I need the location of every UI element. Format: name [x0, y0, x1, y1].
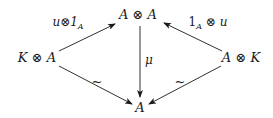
node-aa-right: A: [148, 7, 157, 22]
node-ka-right: A: [47, 50, 56, 65]
node-k-tensor-a: K ⊗ A: [18, 51, 56, 65]
tensor-symbol: ⊗: [235, 50, 246, 65]
label-1a-rest: ⊗ u: [202, 15, 227, 29]
commutative-diagram: K ⊗ A A ⊗ A A ⊗ K A u⊗1A 1A ⊗ u μ ~ ~: [0, 0, 273, 118]
label-mu: μ: [145, 53, 153, 67]
node-ka-left: K: [18, 50, 28, 65]
label-1a-tensor-u: 1A ⊗ u: [189, 15, 228, 34]
tensor-symbol: ⊗: [133, 7, 144, 22]
node-a: A: [135, 101, 144, 115]
node-ak-left: A: [222, 50, 231, 65]
node-a-tensor-k: A ⊗ K: [222, 51, 260, 65]
label-subscript: A: [78, 22, 84, 31]
node-aa-left: A: [119, 7, 128, 22]
label-u-tensor-1a: u⊗1A: [52, 15, 83, 34]
node-ak-right: K: [250, 50, 260, 65]
tensor-symbol: ⊗: [32, 50, 43, 65]
label-iso-left: ~: [92, 75, 103, 89]
label-1a-main: 1: [189, 15, 197, 29]
label-u-tensor-1a-main: u⊗1: [52, 15, 77, 29]
node-a-tensor-a: A ⊗ A: [119, 8, 157, 22]
label-iso-right: ~: [175, 75, 186, 89]
